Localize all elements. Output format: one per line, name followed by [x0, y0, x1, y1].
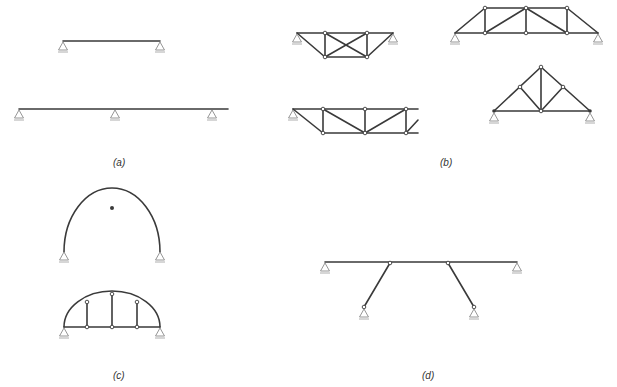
pin-support-icon [59, 252, 69, 262]
panel-b-trusses [288, 6, 603, 135]
panel-c-arches [59, 188, 165, 338]
tied-arch [59, 291, 165, 338]
pin-support-icon [155, 252, 165, 262]
roller-support-icon [512, 263, 522, 273]
pin-support-icon [450, 34, 460, 44]
panel-label-c: (c) [113, 370, 125, 381]
pin-support-icon [489, 113, 499, 123]
roller-support-icon [207, 110, 217, 120]
pin-support-icon [59, 328, 69, 338]
panel-label-a: (a) [113, 157, 125, 168]
roller-support-icon [593, 34, 603, 44]
roller-support-icon [585, 113, 595, 123]
panel-d-strut-braced-beam [320, 261, 522, 319]
roller-support-icon [110, 110, 120, 120]
pin-support-icon [320, 263, 330, 273]
truss-trapezoid-bottom [288, 107, 418, 135]
simple-beam [58, 41, 165, 52]
panel-label-b: (b) [440, 157, 452, 168]
pin-support-icon [359, 309, 369, 319]
pin-support-icon [14, 110, 24, 120]
structural-systems-diagram [0, 0, 617, 387]
roller-support-icon [155, 328, 165, 338]
continuous-beam [14, 109, 228, 120]
truss-x-braced [292, 31, 398, 59]
pin-support-icon [469, 309, 479, 319]
roller-support-icon [155, 42, 165, 52]
panel-label-d: (d) [422, 370, 434, 381]
three-hinged-arch [59, 188, 165, 262]
truss-roof [489, 65, 595, 123]
panel-a-beams [14, 41, 228, 120]
truss-trapezoid-top [450, 6, 603, 44]
pin-support-icon [58, 42, 68, 52]
